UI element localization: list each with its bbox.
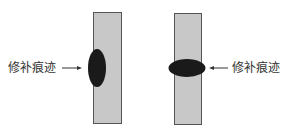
right-repair-mark (169, 59, 206, 77)
left-repair-label: 修补痕迹 (8, 61, 56, 75)
left-repair-mark (88, 49, 106, 87)
right-arrow (209, 66, 228, 70)
left-arrow (62, 66, 82, 70)
right-repair-label: 修补痕迹 (232, 61, 280, 75)
